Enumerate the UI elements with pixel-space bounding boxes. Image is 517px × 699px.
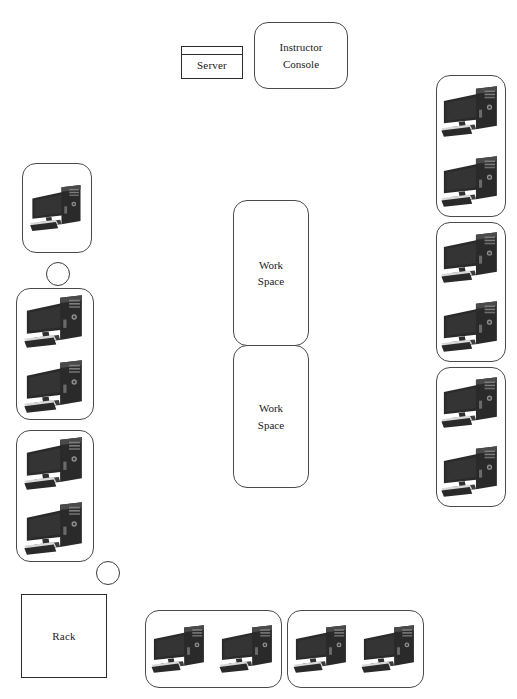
workspace-bottom-label-line1: Work xyxy=(259,402,283,414)
computer-workstation-icon xyxy=(148,624,211,674)
computer-workstation-icon xyxy=(23,501,87,556)
computer-workstation-icon xyxy=(440,445,502,498)
computer-pod-right-pod-3[interactable] xyxy=(436,367,506,507)
computer-workstation-icon xyxy=(440,231,502,284)
computer-workstation-icon xyxy=(290,624,353,674)
instructor-console-label-line1: Instructor xyxy=(280,41,323,53)
workspace-top-label-line2: Space xyxy=(258,275,284,287)
computer-workstation-icon xyxy=(23,436,87,491)
computer-pod-left-pod-2[interactable] xyxy=(16,288,94,420)
computer-pod-left-pod-1[interactable] xyxy=(22,163,92,253)
workspace-bottom-label-line2: Space xyxy=(258,419,284,431)
computer-workstation-icon xyxy=(23,359,87,414)
instructor-console-box[interactable]: InstructorConsole xyxy=(254,22,348,89)
rack-label: Rack xyxy=(52,630,75,643)
workspace-top-label: WorkSpace xyxy=(258,257,284,290)
computer-workstation-icon xyxy=(358,624,421,674)
stool-circle-icon-circle-upper-left xyxy=(46,262,70,286)
computer-pod-bottom-pod-1[interactable] xyxy=(145,610,282,688)
computer-pod-left-pod-3[interactable] xyxy=(16,430,94,562)
computer-workstation-icon xyxy=(440,300,502,353)
computer-pod-bottom-pod-2[interactable] xyxy=(287,610,424,688)
server-label: Server xyxy=(197,59,227,72)
lab-layout-diagram: ServerInstructorConsoleWorkSpaceWorkSpac… xyxy=(0,0,517,699)
computer-workstation-icon xyxy=(216,624,279,674)
computer-workstation-icon xyxy=(23,294,87,349)
server-box[interactable]: Server xyxy=(181,46,243,79)
computer-pod-right-pod-2[interactable] xyxy=(436,222,506,362)
computer-pod-right-pod-1[interactable] xyxy=(436,75,506,217)
instructor-console-label: InstructorConsole xyxy=(280,39,323,72)
workspace-bottom-label: WorkSpace xyxy=(258,400,284,433)
computer-workstation-icon xyxy=(440,376,502,429)
workspace-bottom-box[interactable]: WorkSpace xyxy=(233,345,309,488)
server-top-strip xyxy=(182,47,242,55)
computer-workstation-icon xyxy=(440,155,502,208)
computer-workstation-icon xyxy=(29,182,85,234)
workspace-top-box[interactable]: WorkSpace xyxy=(233,200,309,346)
instructor-console-label-line2: Console xyxy=(283,58,319,70)
stool-circle-icon-circle-lower-left xyxy=(96,561,120,585)
computer-workstation-icon xyxy=(440,85,502,138)
rack-box[interactable]: Rack xyxy=(21,594,107,678)
workspace-top-label-line1: Work xyxy=(259,259,283,271)
